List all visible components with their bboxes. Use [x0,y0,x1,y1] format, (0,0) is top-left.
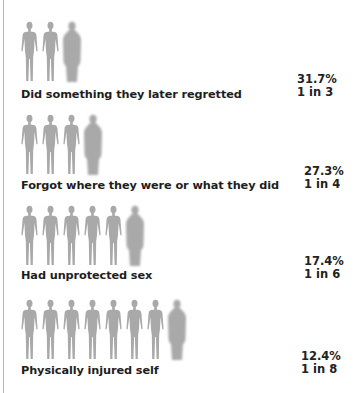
person-icon [82,299,103,361]
row-label: Forgot where they were or what they did [21,179,279,192]
ratio-value: 1 in 3 [297,86,337,99]
person-icon [61,205,82,267]
person-icon [103,205,124,267]
person-icon [124,299,145,361]
ratio-value: 1 in 6 [304,268,344,281]
person-icon [61,114,82,176]
row-stats: 27.3% 1 in 4 [304,165,344,191]
person-icon [61,299,82,361]
person-icon [103,299,124,361]
person-icon [19,205,40,267]
ratio-value: 1 in 8 [301,363,341,376]
person-icon [40,114,61,176]
person-icon [40,205,61,267]
figure-group [19,299,188,361]
person-icon [19,114,40,176]
ratio-value: 1 in 4 [304,178,344,191]
person-highlight-icon [61,21,83,83]
person-icon [145,299,166,361]
figure-group [19,205,146,267]
person-icon [19,299,40,361]
row-stats: 12.4% 1 in 8 [301,350,341,376]
row-label: Had unprotected sex [21,269,152,282]
person-highlight-icon [124,205,146,267]
row-stats: 17.4% 1 in 6 [304,255,344,281]
row-label: Physically injured self [21,364,159,377]
left-border-rule [3,0,4,393]
person-icon [40,299,61,361]
person-icon [40,21,61,83]
figure-group [19,21,83,83]
row-label: Did something they later regretted [21,88,242,101]
person-highlight-icon [166,299,188,361]
person-highlight-icon [82,114,104,176]
person-icon [82,205,103,267]
row-stats: 31.7% 1 in 3 [297,73,337,99]
person-icon [19,21,40,83]
figure-group [19,114,104,176]
